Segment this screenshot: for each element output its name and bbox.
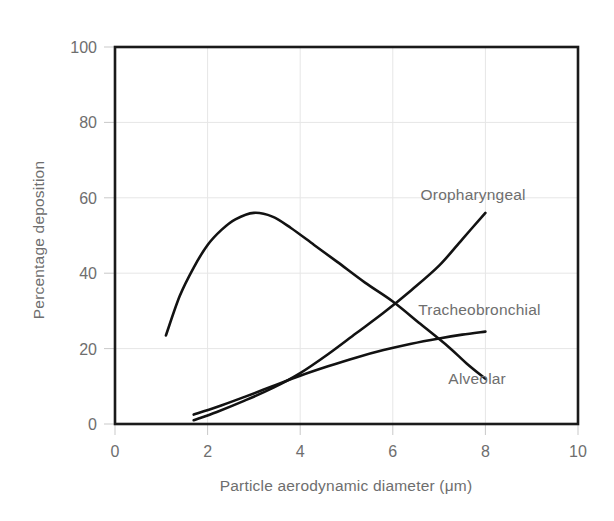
y-tick-label: 60 <box>79 190 97 207</box>
chart-figure: 0246810 020406080100 AlveolarOropharynge… <box>0 0 614 521</box>
x-tick-label: 4 <box>296 443 305 460</box>
series-label-tracheobronchial: Tracheobronchial <box>418 301 540 318</box>
series-label-alveolar: Alveolar <box>448 370 506 387</box>
x-tick-label: 2 <box>203 443 212 460</box>
y-axis-title: Percentage deposition <box>30 161 47 319</box>
series-label-oropharyngeal: Oropharyngeal <box>421 186 526 203</box>
x-tick-label: 6 <box>388 443 397 460</box>
x-axis-title: Particle aerodynamic diameter (μm) <box>220 477 473 494</box>
x-tick-label: 8 <box>481 443 490 460</box>
x-tick-label: 10 <box>569 443 587 460</box>
y-tick-label: 80 <box>79 114 97 131</box>
deposition-chart-svg: 0246810 020406080100 AlveolarOropharynge… <box>0 0 614 521</box>
y-tick-label: 0 <box>88 416 97 433</box>
y-tick-label: 40 <box>79 265 97 282</box>
x-tick-label: 0 <box>111 443 120 460</box>
chart-background <box>0 0 614 521</box>
y-tick-label: 20 <box>79 341 97 358</box>
y-tick-label: 100 <box>70 39 97 56</box>
